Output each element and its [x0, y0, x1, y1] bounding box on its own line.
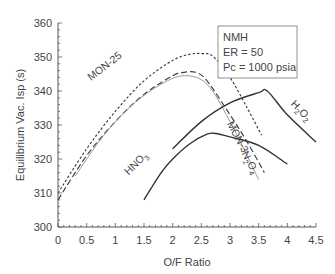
y-tick-label: 320 — [34, 153, 52, 165]
x-axis-label: O/F Ratio — [163, 256, 210, 268]
curve-label: H2O2 — [287, 98, 315, 126]
curve-label: MON-25 — [85, 49, 124, 83]
y-tick-label: 350 — [34, 51, 52, 63]
annotation-line: Pc = 1000 psia — [223, 61, 297, 73]
x-tick-label: 3.5 — [251, 234, 266, 246]
x-tick-label: 1.5 — [136, 234, 151, 246]
annotation-box: NMHER = 50Pc = 1000 psia — [218, 26, 297, 78]
isp-chart: MON-25MON-3N2O4H2O2HNO3 3003103203303403… — [0, 0, 335, 274]
x-tick-label: 0.5 — [79, 234, 94, 246]
x-tick-label: 4.5 — [308, 234, 323, 246]
curve-label: N2O4 — [237, 149, 262, 177]
y-tick-label: 310 — [34, 187, 52, 199]
x-tick-label: 0 — [55, 234, 61, 246]
x-tick-label: 4 — [284, 234, 290, 246]
y-axis-label: Equilibrium Vac. Isp (s) — [14, 69, 26, 181]
curve-label: HNO3 — [121, 149, 151, 179]
x-tick-label: 2.5 — [194, 234, 209, 246]
y-tick-label: 330 — [34, 119, 52, 131]
y-tick-label: 360 — [34, 17, 52, 29]
series-hno3 — [144, 133, 287, 200]
annotation-line: ER = 50 — [223, 46, 263, 58]
x-tick-label: 2 — [170, 234, 176, 246]
y-tick-label: 340 — [34, 85, 52, 97]
x-tick-label: 3 — [227, 234, 233, 246]
y-tick-label: 300 — [34, 221, 52, 233]
x-tick-label: 1 — [112, 234, 118, 246]
annotation-line: NMH — [223, 31, 248, 43]
